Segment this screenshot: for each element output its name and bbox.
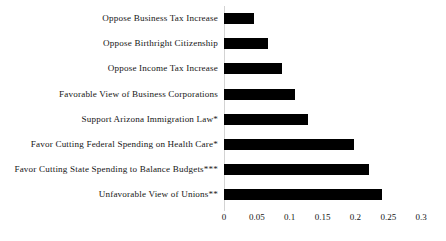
bar-track bbox=[224, 6, 446, 31]
bar bbox=[224, 139, 354, 150]
x-tick-label: 0.2 bbox=[350, 213, 361, 222]
bar-row: Favor Cutting State Spending to Balance … bbox=[0, 157, 446, 182]
bar-row: Unfavorable View of Unions** bbox=[0, 182, 446, 207]
bar-track bbox=[224, 132, 446, 157]
horizontal-bar-chart: Oppose Business Tax IncreaseOppose Birth… bbox=[0, 0, 446, 241]
x-tick-label: 0.1 bbox=[284, 213, 295, 222]
x-tick-label: 0.3 bbox=[415, 213, 426, 222]
category-label: Oppose Birthright Citizenship bbox=[103, 39, 222, 48]
bar bbox=[224, 114, 308, 125]
category-label: Unfavorable View of Unions** bbox=[99, 190, 222, 199]
bar bbox=[224, 164, 369, 175]
bar-row: Oppose Income Tax Increase bbox=[0, 56, 446, 81]
bar bbox=[224, 63, 282, 74]
bar-row: Support Arizona Immigration Law* bbox=[0, 107, 446, 132]
bar-track bbox=[224, 107, 446, 132]
bar bbox=[224, 189, 382, 200]
category-label: Oppose Business Tax Increase bbox=[102, 14, 222, 23]
x-tick-label: 0.25 bbox=[380, 213, 396, 222]
x-axis-tick-labels: 00.050.10.150.20.250.3 bbox=[0, 213, 446, 231]
x-tick-label: 0.15 bbox=[315, 213, 331, 222]
bar-track bbox=[224, 82, 446, 107]
bar-row: Oppose Birthright Citizenship bbox=[0, 31, 446, 56]
bar bbox=[224, 38, 268, 49]
bar-row: Oppose Business Tax Increase bbox=[0, 6, 446, 31]
category-label: Support Arizona Immigration Law* bbox=[82, 115, 222, 124]
bar-row: Favorable View of Business Corporations bbox=[0, 82, 446, 107]
bar-track bbox=[224, 182, 446, 207]
x-tick-label: 0 bbox=[222, 213, 227, 222]
bar-track bbox=[224, 56, 446, 81]
bar-rows-container: Oppose Business Tax IncreaseOppose Birth… bbox=[0, 0, 446, 211]
category-label: Favor Cutting State Spending to Balance … bbox=[14, 165, 222, 174]
category-label: Favor Cutting Federal Spending on Health… bbox=[31, 140, 222, 149]
category-label: Oppose Income Tax Increase bbox=[108, 64, 222, 73]
bar-track bbox=[224, 157, 446, 182]
bar bbox=[224, 13, 254, 24]
bar bbox=[224, 89, 295, 100]
bar-track bbox=[224, 31, 446, 56]
bar-row: Favor Cutting Federal Spending on Health… bbox=[0, 132, 446, 157]
category-label: Favorable View of Business Corporations bbox=[59, 90, 222, 99]
x-tick-label: 0.05 bbox=[249, 213, 265, 222]
